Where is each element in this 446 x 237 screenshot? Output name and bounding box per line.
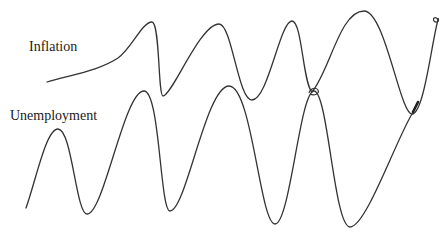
- inflation-curve: [47, 11, 438, 114]
- convergence-mark: [413, 102, 418, 112]
- phillips-curve-diagram: Inflation Unemployment: [0, 0, 446, 237]
- inflation-end-loop: [433, 18, 438, 22]
- unemployment-label: Unemployment: [10, 109, 97, 123]
- inflation-label: Inflation: [29, 40, 77, 54]
